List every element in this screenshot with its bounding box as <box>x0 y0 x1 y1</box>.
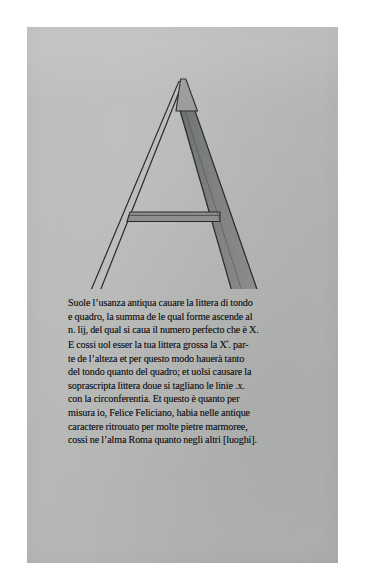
letter-plate <box>27 49 338 289</box>
text-line: n. lij, del qual si caua il numero perfe… <box>68 323 306 337</box>
right-stroke-body <box>179 105 260 289</box>
crossbar <box>127 212 220 222</box>
text-line: cossì ne l’alma Roma quanto negli altri … <box>68 433 306 447</box>
ordinal-superscript: ª <box>227 340 229 347</box>
text-line: Suole l’usanza antiqua cauare la littera… <box>68 296 306 310</box>
body-text: Suole l’usanza antiqua cauare la littera… <box>68 296 306 447</box>
text-line-superscript-content: E cossi uol esser la tua littera grossa … <box>68 339 249 350</box>
screenshot-canvas: Suole l’usanza antiqua cauare la littera… <box>0 0 365 563</box>
crossbar-body <box>127 212 220 222</box>
text-line: te de l’alteza et per questo modo hauerà… <box>68 352 306 366</box>
scanned-page: Suole l’usanza antiqua cauare la littera… <box>27 27 338 563</box>
text-line: e quadro, la summa de le qual forme asce… <box>68 310 306 324</box>
text-line: con la circonferentia. Et questo è quant… <box>68 392 306 406</box>
text-line: caractere ritrouato per molte pietre mar… <box>68 420 306 434</box>
letter-a-drawing <box>27 49 338 289</box>
text-line: soprascripta littera doue si tagliano le… <box>68 379 306 393</box>
text-line: del tondo quanto del quadro; et uolsi ca… <box>68 365 306 379</box>
text-line: misura io, Felice Feliciano, habia nelle… <box>68 406 306 420</box>
left-thin-stroke <box>89 82 183 290</box>
right-thick-stroke <box>179 105 260 289</box>
text-line-with-superscript: E cossi uol esser la tua littera grossa … <box>68 337 306 352</box>
left-stroke-body <box>89 82 183 290</box>
